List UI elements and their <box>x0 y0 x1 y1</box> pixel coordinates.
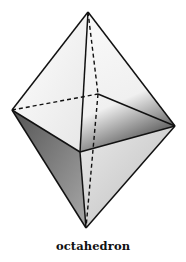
diagram-caption: octahedron <box>0 239 186 253</box>
octahedron-drawing <box>0 0 186 262</box>
face-upper-left <box>12 12 88 152</box>
octahedron-diagram <box>0 0 186 262</box>
